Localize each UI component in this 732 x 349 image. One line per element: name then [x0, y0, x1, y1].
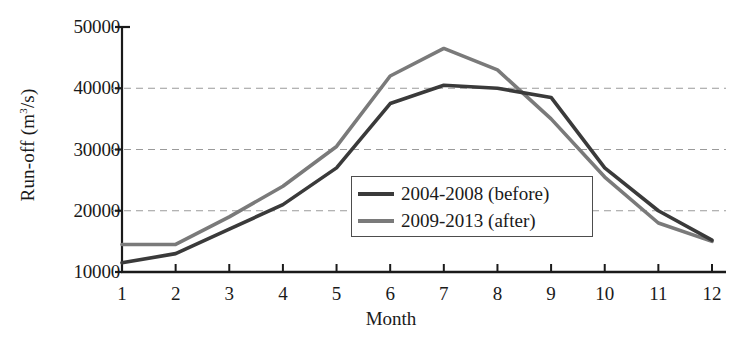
legend: 2004-2008 (before) 2009-2013 (after)	[351, 176, 593, 237]
legend-item-before: 2004-2008 (before)	[358, 180, 586, 207]
legend-swatch-before	[358, 192, 394, 196]
legend-item-after: 2009-2013 (after)	[358, 207, 586, 234]
legend-swatch-after	[358, 219, 394, 223]
x-axis-title: Month	[0, 308, 732, 330]
x-axis-tick-label: 8	[477, 284, 517, 303]
legend-label-before: 2004-2008 (before)	[401, 184, 549, 203]
x-axis-tick-label: 12	[692, 284, 732, 303]
x-axis-tick-label: 7	[424, 284, 464, 303]
x-axis-tick-label: 5	[317, 284, 357, 303]
runoff-line-chart: Run-off (m3/s) 1000020000300004000050000…	[0, 0, 732, 349]
x-axis-tick-label: 9	[531, 284, 571, 303]
x-axis-tick-label: 10	[585, 284, 625, 303]
legend-label-after: 2009-2013 (after)	[401, 211, 536, 230]
x-axis-tick-label: 6	[370, 284, 410, 303]
x-axis-tick-label: 1	[102, 284, 142, 303]
x-axis-tick-label: 4	[263, 284, 303, 303]
x-axis-tick-label: 3	[209, 284, 249, 303]
x-axis-tick-label: 2	[156, 284, 196, 303]
x-axis-tick-label: 11	[638, 284, 678, 303]
